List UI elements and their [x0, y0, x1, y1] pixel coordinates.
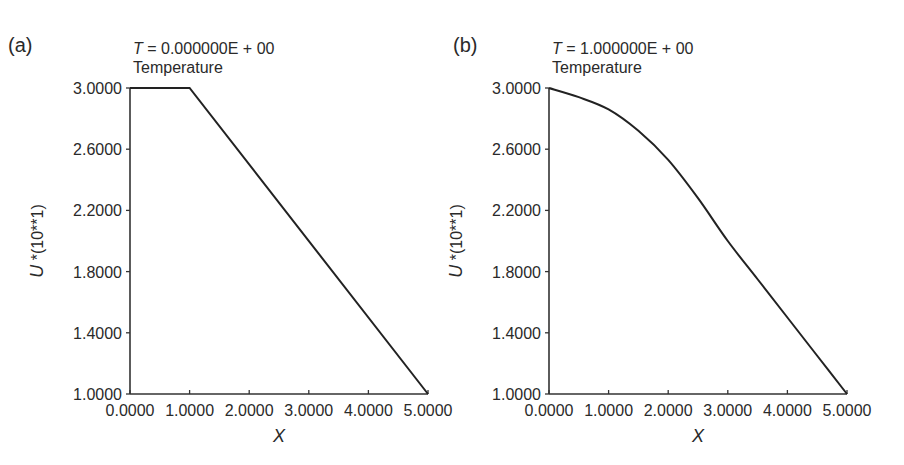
x-tick-label: 1.0000	[165, 402, 214, 419]
chart-title: Temperature	[133, 59, 223, 76]
chart-panel-b: (b)T = 1.000000E + 00Temperature1.00001.…	[446, 34, 872, 446]
x-tick-label: 3.0000	[284, 402, 333, 419]
temperature-curve	[130, 88, 428, 394]
time-label: T = 1.000000E + 00	[552, 40, 694, 57]
y-tick-label: 2.2000	[73, 202, 122, 219]
x-tick-label: 5.0000	[823, 402, 872, 419]
x-axis-label: X	[691, 426, 705, 446]
x-tick-label: 2.0000	[644, 402, 693, 419]
time-label: T = 0.000000E + 00	[133, 40, 275, 57]
y-tick-label: 1.0000	[492, 386, 541, 403]
x-axis-label: X	[272, 426, 286, 446]
y-tick-label: 2.6000	[73, 141, 122, 158]
y-tick-label: 1.8000	[73, 264, 122, 281]
x-tick-label: 3.0000	[703, 402, 752, 419]
figure: (a)T = 0.000000E + 00Temperature1.00001.…	[0, 0, 904, 465]
y-tick-label: 2.2000	[492, 202, 541, 219]
chart-panel-a: (a)T = 0.000000E + 00Temperature1.00001.…	[8, 34, 453, 446]
y-tick-label: 1.0000	[73, 386, 122, 403]
chart-title: Temperature	[552, 59, 642, 76]
x-tick-label: 1.0000	[584, 402, 633, 419]
temperature-curve	[549, 88, 847, 394]
x-tick-label: 4.0000	[344, 402, 393, 419]
x-tick-label: 5.0000	[404, 402, 453, 419]
x-tick-label: 2.0000	[225, 402, 274, 419]
y-tick-label: 3.0000	[492, 80, 541, 97]
x-tick-label: 0.0000	[106, 402, 155, 419]
x-tick-label: 0.0000	[525, 402, 574, 419]
panel-label: (a)	[8, 34, 32, 56]
y-tick-label: 1.4000	[492, 325, 541, 342]
y-tick-label: 1.4000	[73, 325, 122, 342]
y-axis-label: U *(10**1)	[446, 204, 466, 277]
y-tick-label: 1.8000	[492, 264, 541, 281]
x-tick-label: 4.0000	[763, 402, 812, 419]
y-axis-label: U *(10**1)	[27, 204, 47, 277]
y-tick-label: 2.6000	[492, 141, 541, 158]
y-tick-label: 3.0000	[73, 80, 122, 97]
panel-label: (b)	[453, 34, 477, 56]
